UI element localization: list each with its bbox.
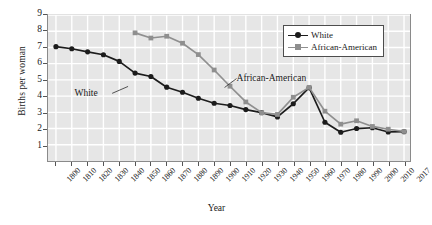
x-tick-mark [389, 162, 390, 166]
x-axis-title: Year [0, 203, 423, 213]
x-tick-1800: 1800 [65, 166, 83, 184]
y-tick-6: 6 [20, 58, 42, 68]
x-axis-title-text: Year [208, 203, 226, 213]
x-tick-1870: 1870 [176, 166, 194, 184]
x-tick-mark [198, 162, 199, 166]
x-tick-mark [373, 162, 374, 166]
x-tick-2017: 2017 [415, 166, 432, 184]
x-tick-mark [294, 162, 295, 166]
x-tick-1960: 1960 [319, 166, 337, 184]
legend-label-african-american: African-American [311, 42, 377, 52]
x-tick-1920: 1920 [256, 166, 274, 184]
x-tick-mark [87, 162, 88, 166]
x-tick-mark [405, 162, 406, 166]
x-tick-1930: 1930 [271, 166, 289, 184]
x-tick-mark [103, 162, 104, 166]
legend-swatch-african-american [288, 42, 308, 52]
x-tick-2010: 2010 [399, 166, 417, 184]
y-tick-2: 2 [20, 124, 42, 134]
x-tick-1900: 1900 [224, 166, 242, 184]
x-tick-mark [341, 162, 342, 166]
x-tick-mark [357, 162, 358, 166]
x-tick-mark [325, 162, 326, 166]
y-tick-4: 4 [20, 91, 42, 101]
x-tick-2000: 2000 [383, 166, 401, 184]
y-tick-1: 1 [20, 141, 42, 151]
x-tick-mark [214, 162, 215, 166]
annotation-white: White [75, 88, 98, 98]
legend-item-african-american: African-American [288, 41, 377, 53]
x-tick-mark [230, 162, 231, 166]
x-tick-1860: 1860 [160, 166, 178, 184]
x-tick-mark [310, 162, 311, 166]
legend-swatch-white [288, 30, 308, 40]
x-tick-1840: 1840 [128, 166, 146, 184]
y-tick-8: 8 [20, 25, 42, 35]
y-tick-5: 5 [20, 75, 42, 85]
x-tick-1980: 1980 [351, 166, 369, 184]
x-tick-1880: 1880 [192, 166, 210, 184]
x-tick-1990: 1990 [367, 166, 385, 184]
x-tick-mark [262, 162, 263, 166]
x-tick-1910: 1910 [240, 166, 258, 184]
x-tick-mark [119, 162, 120, 166]
x-tick-1850: 1850 [144, 166, 162, 184]
x-tick-mark [135, 162, 136, 166]
x-tick-1890: 1890 [208, 166, 226, 184]
x-tick-mark [166, 162, 167, 166]
x-tick-1940: 1940 [287, 166, 305, 184]
x-tick-1970: 1970 [335, 166, 353, 184]
x-tick-mark [278, 162, 279, 166]
chart-legend: White African-American [283, 25, 384, 57]
x-tick-1950: 1950 [303, 166, 321, 184]
x-tick-1810: 1810 [81, 166, 99, 184]
x-tick-mark [71, 162, 72, 166]
x-tick-1830: 1830 [112, 166, 130, 184]
x-tick-mark [55, 162, 56, 166]
annotation-african-american: African-American [237, 73, 307, 83]
x-tick-mark [150, 162, 151, 166]
y-tick-3: 3 [20, 108, 42, 118]
y-tick-9: 9 [20, 9, 42, 19]
legend-item-white: White [288, 29, 377, 41]
x-tick-mark [246, 162, 247, 166]
y-tick-7: 7 [20, 42, 42, 52]
legend-label-white: White [311, 30, 333, 40]
x-tick-mark [182, 162, 183, 166]
x-tick-1820: 1820 [96, 166, 114, 184]
